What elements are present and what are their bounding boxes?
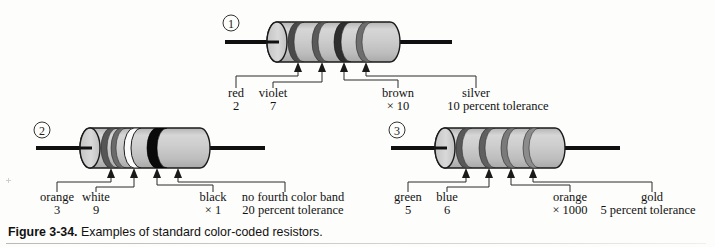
resistor-diagram: 1 red 2 violet 7 brown × 10 silver 10 pe…: [0, 0, 715, 247]
r3-band1-color: green: [394, 190, 423, 204]
scan-speck: [8, 178, 9, 183]
resistor-3: 3 green 5 blue 6 orange × 1000 gold 5 pe…: [389, 122, 696, 217]
figure-caption-text: Examples of standard color-coded resisto…: [81, 225, 323, 239]
leader-arrows-1: [294, 62, 370, 72]
r2-band2-color: white: [82, 190, 110, 204]
r2-band1-color: orange: [40, 190, 74, 204]
r3-band2-value: 6: [444, 203, 450, 217]
r3-band3-color: orange: [553, 190, 587, 204]
resistor-2: 2 orange 3 white 9 black × 1 no fourth c…: [34, 122, 345, 217]
r1-band3-color: brown: [382, 86, 415, 100]
index-circle-3: 3: [389, 122, 405, 138]
index-number-1: 1: [228, 17, 234, 31]
r1-band2-value: 7: [270, 99, 276, 113]
r1-band3-value: × 10: [387, 99, 410, 113]
r3-band1-value: 5: [405, 203, 411, 217]
r3-band3-value: × 1000: [552, 203, 587, 217]
index-number-3: 3: [394, 124, 400, 138]
r1-band1-color: red: [228, 86, 245, 100]
figure-caption-label: Figure 3-34.: [8, 225, 78, 239]
resistor-1: 1 red 2 violet 7 brown × 10 silver 10 pe…: [223, 15, 549, 113]
r2-band3-value: × 1: [205, 203, 221, 217]
caption-divider: [6, 243, 706, 244]
r2-band2-value: 9: [93, 203, 99, 217]
figure-canvas: 1 red 2 violet 7 brown × 10 silver 10 pe…: [0, 0, 715, 247]
r3-band2-color: blue: [436, 190, 458, 204]
r1-band2-color: violet: [259, 86, 288, 100]
r3-band4-value: 5 percent tolerance: [600, 203, 696, 217]
r2-band1-value: 3: [54, 203, 60, 217]
r1-band4-color: silver: [462, 86, 491, 100]
r1-band1-value: 2: [233, 99, 239, 113]
r2-band4-color: no fourth color band: [242, 190, 345, 204]
index-circle-1: 1: [223, 15, 239, 31]
r1-band4-value: 10 percent tolerance: [447, 99, 549, 113]
r3-band4-color: gold: [641, 190, 664, 204]
figure-caption: Figure 3-34. Examples of standard color-…: [8, 225, 323, 239]
r2-band4-value: 20 percent tolerance: [242, 203, 344, 217]
leader-arrows-2: [107, 168, 182, 178]
leader-arrows-3: [462, 168, 537, 178]
index-number-2: 2: [39, 124, 45, 138]
index-circle-2: 2: [34, 122, 50, 138]
resistor-body: [435, 128, 565, 168]
r2-band3-color: black: [199, 190, 227, 204]
resistor-body: [267, 22, 400, 62]
resistor-body: [80, 128, 210, 168]
